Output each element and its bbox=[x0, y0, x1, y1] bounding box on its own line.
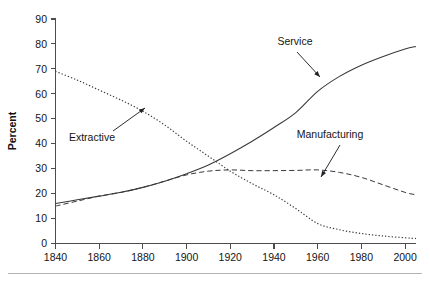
x-tick-label: 1940 bbox=[262, 251, 286, 263]
y-tick-label: 80 bbox=[35, 38, 47, 50]
y-tick-label: 50 bbox=[35, 112, 47, 124]
series-line-service bbox=[56, 46, 417, 203]
x-tick-label: 1840 bbox=[44, 251, 68, 263]
annotation-arrowhead-manufacturing bbox=[321, 171, 326, 177]
x-tick-label: 2000 bbox=[393, 251, 417, 263]
y-tick-label: 40 bbox=[35, 137, 47, 149]
annotation-group: ExtractiveServiceManufacturing bbox=[69, 35, 363, 177]
x-tick-label: 1860 bbox=[88, 251, 112, 263]
y-tick-label: 30 bbox=[35, 162, 47, 174]
x-tick-label: 1920 bbox=[219, 251, 243, 263]
y-tick-label: 90 bbox=[35, 13, 47, 25]
x-tick-label: 1900 bbox=[175, 251, 199, 263]
y-tick-label: 70 bbox=[35, 63, 47, 75]
series-line-extractive bbox=[56, 71, 417, 238]
annotation-arrowhead-extractive bbox=[139, 108, 145, 113]
annotation-label-extractive: Extractive bbox=[69, 131, 115, 143]
chart-figure: 0102030405060708090 18401860188019001920… bbox=[0, 0, 430, 288]
y-tick-label: 10 bbox=[35, 212, 47, 224]
y-axis-title: Percent bbox=[6, 111, 18, 150]
y-tick-label: 60 bbox=[35, 88, 47, 100]
x-tick-label: 1980 bbox=[350, 251, 374, 263]
annotation-label-manufacturing: Manufacturing bbox=[297, 128, 364, 140]
x-axis-tick-group: 184018601880190019201940196019802000 bbox=[44, 244, 417, 264]
annotation-label-service: Service bbox=[277, 35, 312, 47]
y-axis-tick-group: 0102030405060708090 bbox=[35, 13, 55, 250]
y-tick-label: 20 bbox=[35, 187, 47, 199]
line-chart-canvas: 0102030405060708090 18401860188019001920… bbox=[0, 0, 430, 288]
x-tick-label: 1880 bbox=[131, 251, 155, 263]
y-tick-label: 0 bbox=[41, 237, 47, 249]
series-line-manufacturing bbox=[56, 170, 417, 206]
x-tick-label: 1960 bbox=[306, 251, 330, 263]
